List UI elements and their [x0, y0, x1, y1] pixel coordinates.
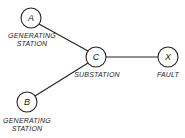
node-c-label: SUBSTATION — [70, 71, 124, 79]
node-b-letter: B — [24, 97, 30, 107]
edge-b-c — [35, 63, 88, 96]
node-a-letter: A — [27, 13, 34, 23]
node-c-letter: C — [93, 52, 100, 62]
node-x-letter: X — [164, 52, 172, 62]
node-b-label-line1: GENERATING — [0, 117, 54, 125]
node-x-label: FAULT — [150, 71, 185, 79]
node-x-label-line1: FAULT — [150, 71, 185, 79]
node-c-label-line1: SUBSTATION — [70, 71, 124, 79]
power-network-diagram: A B C X GENERATING STATION GENERATING ST… — [0, 0, 185, 138]
node-b-label-line2: STATION — [0, 125, 54, 133]
node-a-label: GENERATING STATION — [4, 32, 60, 48]
node-a-label-line2: STATION — [4, 40, 60, 48]
node-a-label-line1: GENERATING — [4, 32, 60, 40]
node-b-label: GENERATING STATION — [0, 117, 54, 133]
